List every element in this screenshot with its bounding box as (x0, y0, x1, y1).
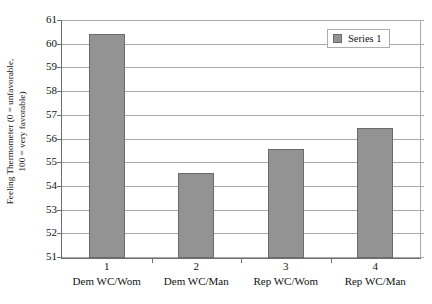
y-tick-mark-right-60 (420, 44, 424, 45)
y-tick-label-56: 56 (33, 133, 57, 144)
y-tick-mark-right-56 (420, 139, 424, 140)
y-tick-mark-right-58 (420, 91, 424, 92)
bar-2 (178, 173, 214, 258)
y-axis-line (61, 20, 62, 259)
y-tick-label-58: 58 (33, 85, 57, 96)
legend: Series 1 (327, 29, 390, 48)
y-axis-title: Feeling Thermometer (0 = unfavorable, 10… (0, 0, 34, 262)
x-axis-labels: 1Dem WC/Wom2Dem WC/Man3Rep WC/Wom4Rep WC… (62, 259, 420, 301)
x-axis-label-name-2: Dem WC/Man (152, 274, 242, 289)
y-tick-mark-right-52 (420, 233, 424, 234)
y-tick-mark-right-53 (420, 210, 424, 211)
y-tick-label-60: 60 (33, 38, 57, 49)
y-tick-mark-55 (57, 162, 61, 163)
x-axis-label-number-3: 3 (241, 259, 331, 274)
y-tick-label-54: 54 (33, 180, 57, 191)
plot-area (62, 20, 421, 258)
legend-label-series-1: Series 1 (348, 33, 382, 44)
bar-4 (357, 128, 393, 258)
x-axis-label-4: 4Rep WC/Man (331, 259, 421, 289)
y-tick-mark-51 (57, 257, 61, 258)
y-tick-label-61: 61 (33, 14, 57, 25)
bar-3 (268, 149, 304, 258)
x-axis-label-number-1: 1 (62, 259, 152, 274)
y-tick-mark-60 (57, 44, 61, 45)
y-tick-mark-58 (57, 91, 61, 92)
y-tick-label-59: 59 (33, 61, 57, 72)
x-axis-label-2: 2Dem WC/Man (152, 259, 242, 289)
y-tick-mark-right-54 (420, 186, 424, 187)
x-axis-label-name-4: Rep WC/Man (331, 274, 421, 289)
y-tick-label-57: 57 (33, 109, 57, 120)
y-tick-mark-right-51 (420, 257, 424, 258)
x-axis-label-1: 1Dem WC/Wom (62, 259, 152, 289)
x-axis-label-name-1: Dem WC/Wom (62, 274, 152, 289)
y-tick-label-52: 52 (33, 227, 57, 238)
x-axis-label-number-2: 2 (152, 259, 242, 274)
y-tick-mark-61 (57, 20, 61, 21)
y-tick-label-53: 53 (33, 204, 57, 215)
y-tick-mark-54 (57, 186, 61, 187)
y-tick-mark-right-57 (420, 115, 424, 116)
y-tick-label-51: 51 (33, 251, 57, 262)
y-tick-mark-right-61 (420, 20, 424, 21)
y-tick-mark-right-55 (420, 162, 424, 163)
x-axis-label-3: 3Rep WC/Wom (241, 259, 331, 289)
y-tick-mark-56 (57, 139, 61, 140)
bar-1 (89, 34, 125, 258)
bar-chart: Feeling Thermometer (0 = unfavorable, 10… (0, 0, 432, 304)
y-axis-title-line-1: Feeling Thermometer (0 = unfavorable, (6, 58, 16, 204)
y-tick-mark-52 (57, 233, 61, 234)
y-axis-tick-labels: 5152535455565758596061 (30, 20, 57, 257)
y-tick-mark-right-59 (420, 67, 424, 68)
x-axis-label-name-3: Rep WC/Wom (241, 274, 331, 289)
y-tick-mark-53 (57, 210, 61, 211)
y-axis-title-line-2: 100 = very favorable) (17, 91, 27, 171)
y-tick-mark-59 (57, 67, 61, 68)
x-axis-label-number-4: 4 (331, 259, 421, 274)
y-tick-label-55: 55 (33, 156, 57, 167)
legend-swatch-series-1 (333, 34, 342, 43)
y-tick-mark-57 (57, 115, 61, 116)
